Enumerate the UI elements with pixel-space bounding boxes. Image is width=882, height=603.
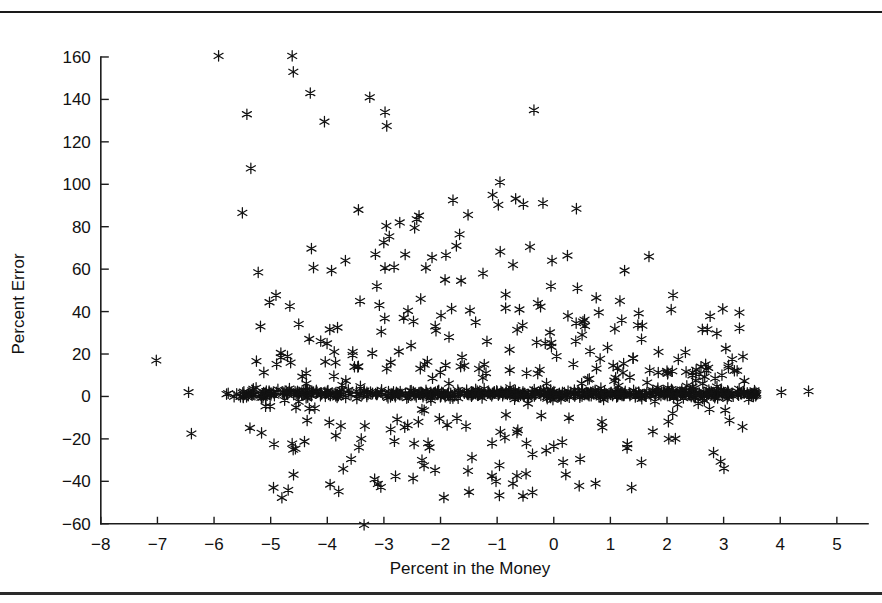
data-point-marker bbox=[668, 408, 677, 418]
data-point-marker bbox=[184, 387, 193, 397]
data-point-marker bbox=[525, 242, 534, 252]
data-point-marker bbox=[563, 311, 572, 321]
data-point-marker bbox=[326, 479, 335, 489]
data-point-marker bbox=[558, 437, 567, 447]
data-point-marker bbox=[644, 251, 653, 261]
data-point-marker bbox=[505, 345, 514, 355]
data-point-marker bbox=[305, 334, 314, 344]
data-point-marker bbox=[339, 464, 348, 474]
data-point-marker bbox=[289, 470, 298, 480]
data-point-marker bbox=[380, 313, 389, 323]
data-point-marker bbox=[664, 434, 673, 444]
data-point-marker bbox=[648, 426, 657, 436]
x-tick-label: −8 bbox=[91, 535, 110, 554]
data-point-marker bbox=[445, 332, 454, 342]
data-point-marker bbox=[654, 347, 663, 357]
data-point-marker bbox=[594, 307, 603, 317]
data-point-marker bbox=[528, 487, 537, 497]
data-point-marker bbox=[625, 372, 634, 382]
data-point-marker bbox=[360, 421, 369, 431]
data-point-marker bbox=[309, 262, 318, 272]
data-point-marker bbox=[735, 307, 744, 317]
data-point-marker bbox=[538, 198, 547, 208]
data-point-marker bbox=[325, 417, 334, 427]
data-point-marker bbox=[619, 358, 628, 368]
data-point-marker bbox=[414, 417, 423, 427]
data-point-marker bbox=[371, 249, 380, 259]
data-point-marker bbox=[596, 354, 605, 364]
data-point-marker bbox=[508, 260, 517, 270]
x-axis-title: Percent in the Money bbox=[390, 559, 551, 578]
data-point-marker bbox=[421, 263, 430, 273]
data-point-marker bbox=[569, 359, 578, 369]
data-point-marker bbox=[441, 250, 450, 260]
data-point-marker bbox=[674, 354, 683, 364]
data-point-marker bbox=[320, 116, 329, 126]
data-point-marker bbox=[561, 469, 570, 479]
data-point-marker bbox=[615, 296, 624, 306]
data-point-marker bbox=[542, 445, 551, 455]
data-point-marker bbox=[401, 249, 410, 259]
data-point-marker bbox=[718, 304, 727, 314]
data-point-marker bbox=[357, 434, 366, 444]
data-point-marker bbox=[623, 443, 632, 453]
data-point-marker bbox=[257, 428, 266, 438]
data-point-marker bbox=[305, 403, 314, 413]
data-point-marker bbox=[348, 350, 357, 360]
data-point-marker bbox=[537, 410, 546, 420]
data-point-marker bbox=[452, 241, 461, 251]
y-tick-label: 140 bbox=[62, 90, 90, 109]
y-tick-label: 60 bbox=[72, 260, 91, 279]
data-point-marker bbox=[327, 265, 336, 275]
data-point-marker bbox=[717, 370, 726, 380]
data-point-marker bbox=[496, 246, 505, 256]
data-point-marker bbox=[488, 438, 497, 448]
data-point-marker bbox=[271, 290, 280, 300]
y-tick-label: 0 bbox=[81, 387, 90, 406]
data-point-marker bbox=[501, 410, 510, 420]
data-point-marker bbox=[721, 343, 730, 353]
data-point-marker bbox=[706, 311, 715, 321]
x-tick-label: 3 bbox=[719, 535, 728, 554]
data-point-marker bbox=[437, 310, 446, 320]
data-point-marker bbox=[395, 217, 404, 227]
data-point-marker bbox=[634, 308, 643, 318]
data-point-marker bbox=[528, 449, 537, 459]
data-point-marker bbox=[444, 378, 453, 388]
data-point-marker bbox=[375, 300, 384, 310]
data-markers-group bbox=[152, 51, 813, 530]
data-point-marker bbox=[515, 304, 524, 314]
y-axis-title: Percent Error bbox=[9, 253, 28, 354]
axes-group bbox=[101, 57, 868, 524]
x-tick-label: 1 bbox=[606, 535, 615, 554]
data-point-marker bbox=[265, 297, 274, 307]
y-tick-label: −40 bbox=[62, 472, 91, 491]
data-point-marker bbox=[410, 438, 419, 448]
data-point-marker bbox=[441, 275, 450, 285]
data-point-marker bbox=[573, 283, 582, 293]
data-point-marker bbox=[448, 195, 457, 205]
data-point-marker bbox=[681, 347, 690, 357]
data-point-marker bbox=[256, 321, 265, 331]
data-point-marker bbox=[669, 290, 678, 300]
data-point-marker bbox=[522, 368, 531, 378]
data-point-marker bbox=[382, 121, 391, 131]
data-point-marker bbox=[447, 303, 456, 313]
data-point-marker bbox=[508, 478, 517, 488]
data-point-marker bbox=[629, 353, 638, 363]
data-point-marker bbox=[266, 401, 275, 411]
data-point-marker bbox=[586, 346, 595, 356]
data-point-marker bbox=[439, 492, 448, 502]
data-point-marker bbox=[394, 346, 403, 356]
data-point-marker bbox=[390, 436, 399, 446]
figure-container: −8−7−6−5−4−3−2−1012345 −60−40−2002040608… bbox=[0, 0, 882, 603]
data-point-marker bbox=[347, 454, 356, 464]
data-point-marker bbox=[591, 478, 600, 488]
data-point-marker bbox=[709, 447, 718, 457]
data-point-marker bbox=[495, 490, 504, 500]
data-point-marker bbox=[379, 237, 388, 247]
data-point-marker bbox=[331, 431, 340, 441]
data-point-marker bbox=[496, 427, 505, 437]
scatter-plot-area: −8−7−6−5−4−3−2−1012345 −60−40−2002040608… bbox=[0, 14, 882, 590]
data-point-marker bbox=[381, 107, 390, 117]
